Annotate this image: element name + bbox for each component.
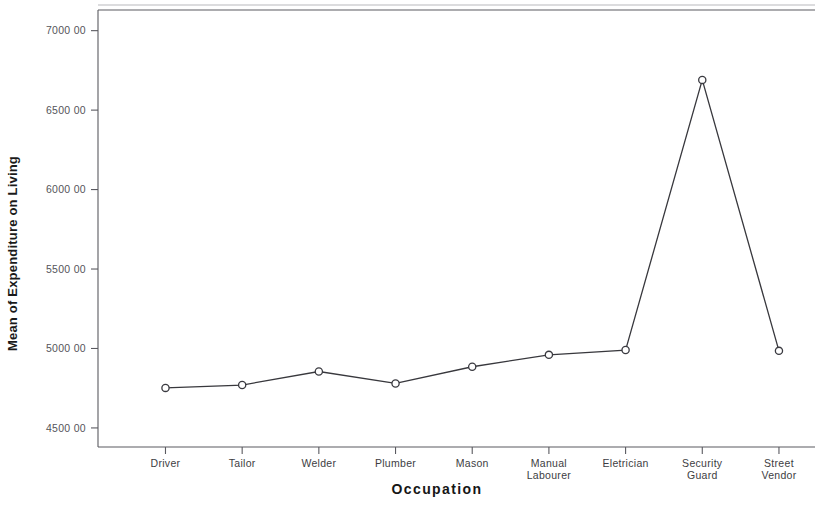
data-series-expenditure xyxy=(162,76,783,391)
data-point-marker xyxy=(315,368,322,375)
y-tick-label: 5000 00 xyxy=(46,342,86,354)
y-tick-label: 5500 00 xyxy=(46,263,86,275)
x-tick-label: StreetVendor xyxy=(761,457,796,481)
y-axis-ticks: 4500 005000 005500 006000 006500 007000 … xyxy=(46,24,98,433)
x-tick-label: Tailor xyxy=(229,457,256,469)
x-tick-label: Welder xyxy=(301,457,336,469)
x-tick-label: Plumber xyxy=(375,457,416,469)
x-tick-label: Driver xyxy=(151,457,181,469)
data-point-marker xyxy=(775,347,782,354)
data-point-marker xyxy=(469,363,476,370)
x-tick-label: Eletrician xyxy=(602,457,648,469)
x-tick-label: Mason xyxy=(456,457,489,469)
data-point-marker xyxy=(392,380,399,387)
data-point-marker xyxy=(622,346,629,353)
data-point-marker xyxy=(162,384,169,391)
y-tick-label: 4500 00 xyxy=(46,422,86,434)
x-axis-title: Occupation xyxy=(97,481,777,497)
data-point-marker xyxy=(699,76,706,83)
data-point-marker xyxy=(545,351,552,358)
y-tick-label: 6000 00 xyxy=(46,183,86,195)
plot-area: 4500 005000 005500 006000 006500 007000 … xyxy=(0,0,815,507)
y-tick-label: 6500 00 xyxy=(46,104,86,116)
data-point-marker xyxy=(239,381,246,388)
y-tick-label: 7000 00 xyxy=(46,24,86,36)
line-chart-figure: Mean of Expenditure on Living 4500 00500… xyxy=(0,0,815,507)
series-line-path xyxy=(165,80,778,388)
x-tick-label: SecurityGuard xyxy=(682,457,723,481)
x-axis-ticks: DriverTailorWelderPlumberMasonManualLabo… xyxy=(151,447,797,481)
x-tick-label: ManualLabourer xyxy=(527,457,572,481)
